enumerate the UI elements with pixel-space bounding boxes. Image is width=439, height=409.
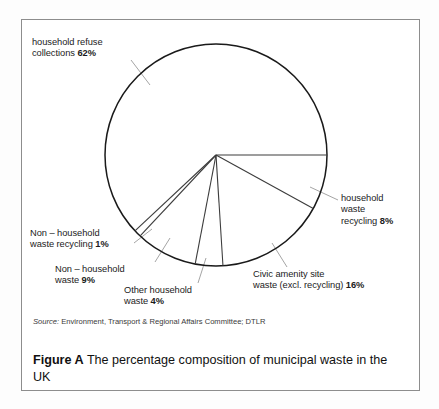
- figure-caption-text: The percentage composition of municipal …: [33, 353, 387, 384]
- pie-label-non-household-recycling-line2: waste recycling: [30, 239, 93, 249]
- pie-label-household-refuse-collections: household refuse collections 62%: [32, 37, 103, 60]
- pie-label-non-household-waste-value: 9%: [82, 275, 95, 285]
- pie-label-other-household-line2: waste: [124, 296, 148, 306]
- pie-label-civic-amenity-line1: Civic amenity site: [253, 269, 324, 279]
- pie-label-civic-amenity-line2: waste (excl. recycling): [253, 280, 343, 290]
- source-text: Environment, Transport & Regional Affair…: [59, 317, 265, 326]
- pie-label-other-household-waste: Other household waste 4%: [124, 285, 192, 308]
- pie-label-non-household-waste-line2: waste: [55, 275, 79, 285]
- page-background: household refuse collections 62% househo…: [0, 0, 439, 409]
- pie-label-household-refuse-value: 62%: [77, 48, 95, 58]
- pie-label-civic-amenity-value: 16%: [346, 280, 364, 290]
- pie-label-non-household-recycling-line1: Non – household: [30, 228, 100, 238]
- source-note: Source: Environment, Transport & Regiona…: [33, 317, 265, 326]
- pie-label-household-waste-recycling: household waste recycling 8%: [341, 193, 393, 227]
- pie-label-civic-amenity-site-waste: Civic amenity site waste (excl. recyclin…: [253, 269, 364, 292]
- pie-label-household-waste-recycling-value: 8%: [380, 216, 393, 226]
- pie-label-non-household-waste-recycling: Non – household waste recycling 1%: [30, 228, 109, 251]
- pie-label-household-refuse-line1: household refuse: [32, 37, 103, 47]
- pie-label-household-waste-recycling-line1: household: [341, 193, 383, 203]
- pie-label-non-household-waste-line1: Non – household: [55, 264, 125, 274]
- pie-label-non-household-recycling-value: 1%: [95, 239, 108, 249]
- pie-label-household-waste-recycling-line3: recycling: [341, 216, 377, 226]
- pie-label-other-household-value: 4%: [151, 296, 164, 306]
- figure-caption: Figure A The percentage composition of m…: [33, 352, 405, 385]
- pie-label-household-refuse-line2: collections: [32, 48, 75, 58]
- figure-caption-label: Figure A: [33, 353, 84, 367]
- pie-label-non-household-waste: Non – household waste 9%: [55, 264, 125, 287]
- pie-label-other-household-line1: Other household: [124, 285, 192, 295]
- pie-label-household-waste-recycling-line2: waste: [341, 204, 365, 214]
- source-prefix: Source:: [33, 317, 59, 326]
